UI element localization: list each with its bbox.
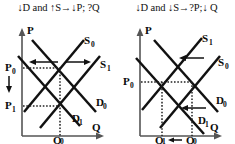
- y-axis-label: P: [145, 24, 152, 36]
- diagram-panel-right: ↓D and ↓S→?P;↓ Q: [118, 0, 235, 144]
- quantity-tick-Q1-sub: 1: [162, 137, 166, 144]
- diagram-panel-left: ↓D and ↑S→↓P; ?Q: [0, 0, 117, 144]
- supply-label-S0: S: [84, 34, 90, 46]
- demand-label-D0-sub: 0: [103, 102, 107, 111]
- supply-label-S1-sub: 1: [107, 64, 111, 73]
- panel-left-plot: P Q S 0 S 1 D 0 D 1 P 0 P 1 Q 0: [0, 18, 117, 144]
- demand-curve-D0: [154, 40, 218, 112]
- y-axis-arrowhead: [137, 28, 144, 36]
- supply-label-S1: S: [202, 32, 208, 44]
- price-tick-P0-sub: 0: [130, 81, 134, 90]
- x-axis-arrowhead: [96, 133, 104, 140]
- supply-shift-right-arrow: [66, 59, 91, 65]
- supply-label-S0: S: [218, 56, 224, 68]
- demand-label-D0-sub: 0: [223, 100, 227, 109]
- price-tick-P0-sub: 0: [12, 67, 16, 76]
- panel-right-plot: P Q S 1 S 0 D 0 D 1 P 0 Q 1 Q 0: [118, 18, 235, 144]
- demand-curve-D0: [32, 40, 96, 112]
- price-tick-P1: P: [5, 99, 12, 111]
- panel-left-caption: ↓D and ↑S→↓P; ?Q: [0, 1, 117, 14]
- price-tick-P0: P: [5, 61, 12, 73]
- supply-label-S1: S: [100, 58, 106, 70]
- demand-label-D1-sub: 1: [79, 118, 83, 127]
- quantity-tick-Q0-sub: 0: [60, 137, 64, 144]
- price-tick-P1-sub: 1: [12, 105, 16, 114]
- supply-label-S0-sub: 0: [91, 40, 95, 49]
- demand-label-D1-sub: 1: [205, 120, 209, 129]
- x-axis-label: Q: [210, 121, 219, 133]
- demand-curve-D1: [136, 58, 204, 134]
- price-fall-arrow: [6, 76, 12, 93]
- panel-right-caption: ↓D and ↓S→?P;↓ Q: [118, 1, 235, 14]
- supply-curve-S0: [24, 40, 84, 112]
- price-tick-P0: P: [123, 75, 130, 87]
- demand-shift-left-arrow: [181, 105, 206, 111]
- quantity-fall-arrow: [168, 138, 182, 143]
- y-axis-arrowhead: [19, 28, 26, 36]
- supply-label-S0-sub: 0: [225, 62, 229, 71]
- x-axis-arrowhead: [214, 133, 222, 140]
- y-axis-label: P: [27, 24, 34, 36]
- quantity-tick-Q0-sub: 0: [193, 137, 197, 144]
- supply-label-S1-sub: 1: [209, 38, 213, 47]
- x-axis-label: Q: [92, 121, 101, 133]
